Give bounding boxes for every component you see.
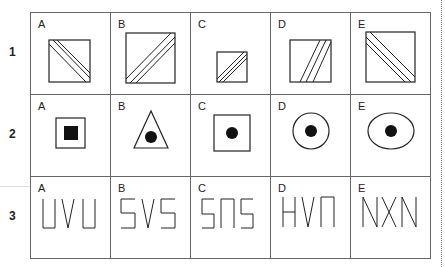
- triangle-with-filled-circle-icon: [111, 95, 191, 177]
- square-with-filled-square-icon: [31, 95, 111, 177]
- square-diagonal-lines-icon: [351, 13, 431, 95]
- cell-3d[interactable]: D: [271, 177, 351, 259]
- square-diagonal-lines-icon: [191, 13, 271, 95]
- letters-svs-icon: [111, 177, 191, 259]
- cell-3a[interactable]: A: [31, 177, 111, 259]
- square-with-filled-circle-icon: [191, 95, 271, 177]
- cell-1b[interactable]: B: [111, 13, 191, 95]
- cell-1c[interactable]: C: [191, 13, 271, 95]
- cell-2d[interactable]: D: [271, 95, 351, 177]
- cell-3e[interactable]: E: [351, 177, 431, 259]
- cell-1d[interactable]: D: [271, 13, 351, 95]
- letters-hvn-icon: [271, 177, 351, 259]
- ellipse-with-filled-circle-icon: [351, 95, 431, 177]
- letters-sns-icon: [191, 177, 271, 259]
- cell-2b[interactable]: B: [111, 95, 191, 177]
- cell-3b[interactable]: B: [111, 177, 191, 259]
- cell-2a[interactable]: A: [31, 95, 111, 177]
- cell-1a[interactable]: A: [31, 13, 111, 95]
- square-diagonal-lines-icon: [31, 13, 111, 95]
- cell-1e[interactable]: E: [351, 13, 431, 95]
- circle-with-filled-circle-icon: [271, 95, 351, 177]
- dotted-margin-line: [441, 0, 442, 267]
- cell-2e[interactable]: E: [351, 95, 431, 177]
- letters-uvu-icon: [31, 177, 111, 259]
- row-number-2: 2: [9, 127, 16, 141]
- cell-3c[interactable]: C: [191, 177, 271, 259]
- square-diagonal-lines-icon: [111, 13, 191, 95]
- row-number-1: 1: [9, 45, 16, 59]
- puzzle-grid: A B C D: [30, 12, 431, 259]
- letters-nxn-icon: [351, 177, 431, 259]
- square-diagonal-lines-icon: [271, 13, 351, 95]
- cell-2c[interactable]: C: [191, 95, 271, 177]
- row-number-3: 3: [9, 209, 16, 223]
